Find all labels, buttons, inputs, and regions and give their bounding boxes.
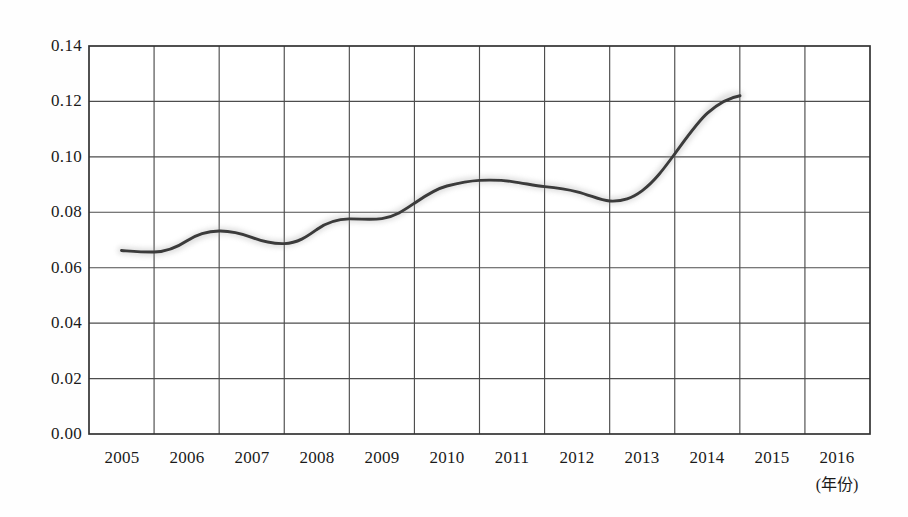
- x-tick-label: 2005: [86, 448, 158, 468]
- x-tick-label: 2010: [411, 448, 483, 468]
- x-tick-label: 2014: [671, 448, 743, 468]
- chart-container: 0.14 0.12 0.10 0.08 0.06 0.04 0.02 0.00 …: [0, 0, 908, 517]
- x-tick-label: 2007: [216, 448, 288, 468]
- x-tick-label: 2011: [476, 448, 548, 468]
- x-tick-label: 2006: [151, 448, 223, 468]
- x-tick-label: 2008: [281, 448, 353, 468]
- x-tick-label: 2009: [346, 448, 418, 468]
- x-tick-label: 2012: [541, 448, 613, 468]
- x-axis-unit-label: (年份): [801, 471, 873, 495]
- x-tick-label: 2013: [606, 448, 678, 468]
- x-axis: 2005 2006 2007 2008 2009 2010 2011 2012 …: [0, 0, 908, 517]
- x-tick-label: 2015: [736, 448, 808, 468]
- x-tick-label: 2016: [801, 448, 873, 468]
